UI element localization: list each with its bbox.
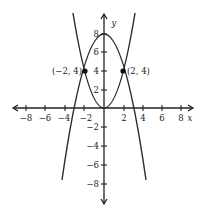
x-axis-label: x (188, 113, 193, 123)
x-tick-labels: −8 −6 −4 −2 2 4 6 8 x (20, 113, 193, 123)
y-axis (101, 14, 107, 204)
x-tick-label: 4 (140, 113, 145, 123)
x-tick-label: −4 (58, 113, 71, 123)
x-tick-label: 8 (178, 113, 183, 123)
y-tick-label: −2 (86, 122, 99, 132)
y-tick-label: 4 (94, 66, 99, 76)
y-tick-label: −8 (86, 179, 99, 189)
y-tick-labels: 8 6 4 2 −2 −4 −6 −8 y (86, 18, 116, 189)
x-tick-label: 6 (159, 113, 164, 123)
x-tick-label: −8 (20, 113, 33, 123)
graph-plot: −8 −6 −4 −2 2 4 6 8 x 8 6 4 2 −2 −4 −6 −… (0, 0, 202, 215)
y-tick-label: 2 (94, 85, 99, 95)
x-tick-label: 2 (121, 113, 126, 123)
point-left (82, 68, 87, 73)
point-right-label: (2, 4) (127, 66, 150, 76)
y-tick-label: −6 (86, 160, 99, 170)
point-left-label: (−2, 4) (52, 66, 82, 76)
point-right (120, 68, 125, 73)
y-tick-label: −4 (86, 141, 99, 151)
x-tick-label: −6 (39, 113, 52, 123)
y-tick-label: 6 (94, 47, 99, 57)
y-axis-label: y (111, 18, 117, 28)
